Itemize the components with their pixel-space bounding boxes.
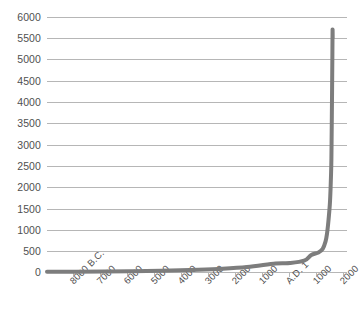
x-tick-label: 1000	[311, 263, 334, 286]
x-tick-label: 5000	[149, 263, 172, 286]
population-line-chart: 6000 5500 5000 4500 4000 3500 3000 2500 …	[0, 0, 361, 331]
x-tick-label: 2000	[338, 263, 361, 286]
x-tick-label: 6000	[122, 263, 145, 286]
x-tick-label: 3000	[203, 263, 226, 286]
x-tick-label: 1000	[257, 263, 280, 286]
x-tick-label: 2000	[230, 263, 253, 286]
x-axis-labels: 8000 B.C. 7000 6000 5000 4000 3000 2000 …	[0, 0, 361, 331]
x-tick-label: A.D. 1	[284, 259, 311, 286]
x-tick-label: 4000	[176, 263, 199, 286]
x-tick-label: 7000	[95, 263, 118, 286]
